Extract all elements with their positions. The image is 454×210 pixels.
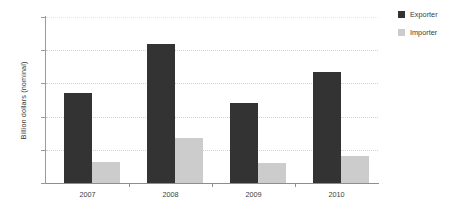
y-axis-title: Billion dollars (nominal): [19, 26, 28, 176]
plot-area: [46, 17, 378, 183]
legend: Exporter Importer: [398, 10, 438, 46]
y-tick-mark: [41, 117, 46, 118]
x-tick-label-2007: 2007: [58, 190, 118, 199]
bar-importer-2008: [175, 138, 203, 183]
y-tick-mark: [41, 183, 46, 184]
legend-item-exporter: Exporter: [398, 10, 438, 19]
bar-importer-2010: [341, 156, 369, 183]
y-tick-mark: [41, 150, 46, 151]
gridline: [46, 50, 378, 51]
bar-importer-2009: [258, 163, 286, 183]
x-tick-mark: [295, 183, 296, 187]
bar-exporter-2007: [64, 93, 92, 183]
bar-exporter-2010: [313, 72, 341, 183]
y-tick-mark: [41, 17, 46, 18]
legend-swatch-icon-exporter: [398, 11, 405, 18]
legend-swatch-icon-importer: [398, 29, 405, 36]
legend-label-importer: Importer: [410, 28, 437, 37]
x-axis-line: [42, 183, 379, 184]
bar-chart: Billion dollars (nominal) 01002003004005…: [0, 0, 454, 210]
bar-exporter-2009: [230, 103, 258, 183]
x-tick-mark: [212, 183, 213, 187]
x-tick-label-2008: 2008: [141, 190, 201, 199]
y-tick-mark: [41, 50, 46, 51]
x-tick-label-2009: 2009: [224, 190, 284, 199]
x-tick-label-2010: 2010: [307, 190, 367, 199]
legend-label-exporter: Exporter: [410, 10, 438, 19]
bar-exporter-2008: [147, 44, 175, 183]
y-tick-mark: [41, 83, 46, 84]
gridline: [46, 17, 378, 18]
legend-item-importer: Importer: [398, 28, 438, 37]
bar-importer-2007: [92, 162, 120, 183]
x-tick-mark: [129, 183, 130, 187]
